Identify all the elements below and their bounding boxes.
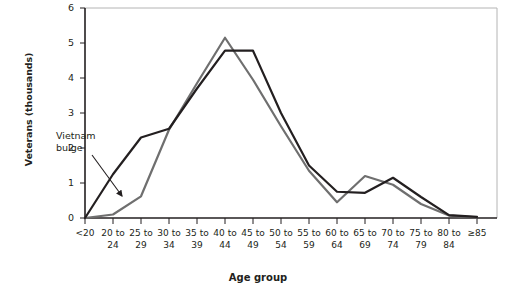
data-line-gray	[85, 38, 477, 218]
plot-area	[0, 0, 516, 291]
annotation-arrow	[92, 155, 122, 196]
data-line-dark	[85, 51, 477, 218]
x-axis-ticks	[85, 218, 477, 224]
chart-figure: Veterans (thousands) Age group 6 5 4 3 2…	[0, 0, 516, 291]
